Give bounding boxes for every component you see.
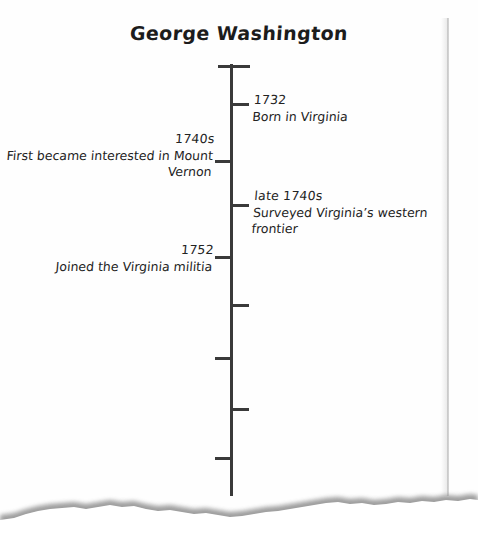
timeline-axis [230,64,233,496]
timeline-event-born: 1732 Born in Virginia [252,92,455,125]
event-description: Born in Virginia [252,109,453,126]
page-edge-line [447,18,449,496]
event-year: 1740s [0,131,215,148]
timeline-tick-unlabeled-3 [231,408,249,411]
timeline-tick-militia [215,256,233,259]
event-description: Surveyed Virginia’s western frontier [251,205,454,238]
event-description: First became interested in Mount Vernon [0,148,214,181]
timeline-tick-unlabeled-1 [231,304,249,307]
event-description: Joined the Virginia militia [0,259,213,276]
timeline-tick-cap [218,65,250,68]
timeline-tick-unlabeled-4 [215,457,233,460]
torn-paper-edge [0,473,478,543]
timeline-tick-born [231,103,249,106]
timeline-tick-mount-vernon [215,160,233,163]
timeline-tick-surveying [231,204,249,207]
event-year: late 1740s [254,188,455,205]
timeline-event-surveying: late 1740s Surveyed Virginia’s western f… [251,188,455,238]
event-year: 1732 [253,92,454,109]
event-year: 1752 [0,242,214,259]
timeline-event-militia: 1752 Joined the Virginia militia [0,242,214,275]
timeline-tick-unlabeled-2 [215,357,233,360]
page-title: George Washington [0,22,478,44]
timeline-event-mount-vernon: 1740s First became interested in Mount V… [0,131,215,181]
timeline-page: George Washington 1732 Born in Virginia … [0,0,478,543]
